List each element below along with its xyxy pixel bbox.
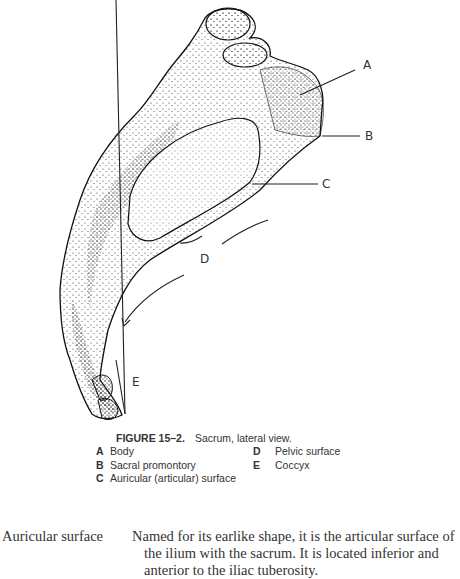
legend-item: DPelvic surface	[253, 445, 340, 459]
legend-item: ABody	[96, 445, 236, 459]
legend-left-column: ABody BSacral promontory CAuricular (art…	[96, 445, 236, 486]
sacrum-illustration: A B C D E	[0, 0, 453, 425]
label-e: E	[132, 375, 140, 389]
figure-number: FIGURE 15–2.	[116, 432, 185, 444]
label-d: D	[200, 252, 209, 266]
glossary-definition: Named for its earlike shape, it is the a…	[132, 528, 460, 579]
label-c: C	[322, 177, 330, 191]
label-a: A	[363, 58, 371, 72]
legend-right-column: DPelvic surface ECoccyx	[253, 445, 340, 472]
legend-item: BSacral promontory	[96, 459, 236, 473]
figure-caption: FIGURE 15–2.Sacrum, lateral view.	[116, 432, 292, 444]
legend-item: ECoccyx	[253, 459, 340, 473]
legend-item: CAuricular (articular) surface	[96, 472, 236, 486]
sacrum-drawing	[0, 0, 453, 425]
label-b: B	[365, 129, 373, 143]
figure-title: Sacrum, lateral view.	[195, 432, 292, 444]
glossary-term: Auricular surface	[2, 528, 103, 545]
